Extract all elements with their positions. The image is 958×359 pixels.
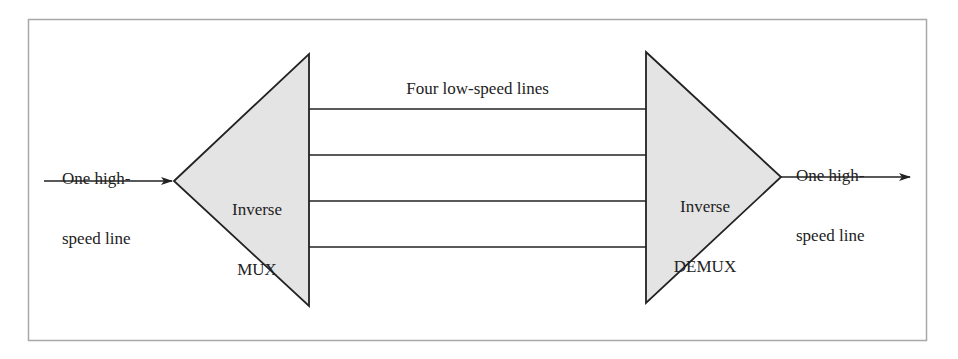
output-label-line1: One high-	[796, 166, 864, 186]
mux-label: Inverse MUX	[212, 160, 302, 300]
diagram-frame	[29, 20, 927, 341]
input-label: One high- speed line	[62, 129, 130, 269]
low-speed-lines	[309, 109, 646, 247]
demux-label: Inverse DEMUX	[650, 157, 760, 297]
demux-label-line1: Inverse	[650, 197, 760, 217]
output-label: One high- speed line	[796, 126, 864, 266]
mux-label-line1: Inverse	[212, 200, 302, 220]
demux-label-line2: DEMUX	[650, 257, 760, 277]
input-label-line2: speed line	[62, 229, 130, 249]
input-label-line1: One high-	[62, 169, 130, 189]
output-label-line2: speed line	[796, 226, 864, 246]
mux-label-line2: MUX	[212, 260, 302, 280]
links-label: Four low-speed lines	[309, 79, 646, 99]
